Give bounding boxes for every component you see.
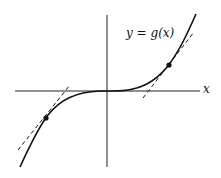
x-axis-label: x [203, 82, 210, 96]
point-right [166, 62, 171, 67]
curve-label: y = g(x) [126, 26, 174, 40]
point-left [43, 115, 48, 120]
graph-svg [0, 0, 221, 178]
diagram-canvas: y = g(x) x [0, 0, 221, 178]
